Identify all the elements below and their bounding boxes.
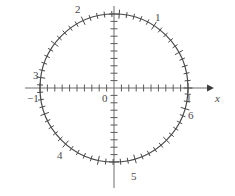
x-tick-label-one: 1 xyxy=(186,93,192,104)
arc-label-6: 6 xyxy=(188,110,194,121)
arc-label-5: 5 xyxy=(131,171,137,182)
arc-label-2: 2 xyxy=(75,4,81,15)
x-axis-arrowhead xyxy=(207,84,214,91)
arc-label-1: 1 xyxy=(155,12,161,23)
x-axis-label: x xyxy=(215,93,220,104)
x-tick-label-negative-one: −1 xyxy=(27,93,39,104)
unit-circle-figure: 1 2 3 4 5 6 −1 0 1 x xyxy=(0,0,235,196)
arc-label-4: 4 xyxy=(57,150,63,161)
origin-label: 0 xyxy=(102,93,108,104)
arc-label-3: 3 xyxy=(33,70,39,81)
